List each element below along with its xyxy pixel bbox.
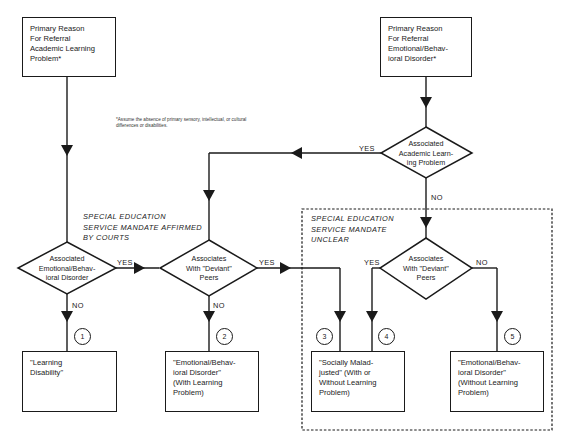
box-line: Primary Reason: [30, 24, 108, 34]
region-line: SERVICE MANDATE AFFIRMED: [83, 223, 202, 234]
box-line: (Without Learning: [458, 378, 536, 388]
label-no-deviant-right: NO: [476, 258, 488, 267]
box-line: (With Learning: [173, 378, 251, 388]
box-outcome-learning-disability: "Learning Disability": [22, 351, 117, 412]
decision-line: Peers: [169, 273, 249, 283]
box-line: "Socially Malad-: [319, 358, 397, 368]
region-line: BY COURTS: [83, 233, 202, 244]
decision-text-deviant-right: Associates With "Deviant" Peers: [386, 254, 466, 283]
box-line: "Learning: [30, 358, 109, 368]
box-line: ioral Disorder": [173, 368, 251, 378]
label-no-deviant-left: NO: [213, 301, 225, 310]
label-yes-emotional: YES: [117, 258, 133, 267]
box-line: ioral Disorder*: [388, 54, 464, 64]
box-line: Academic Learning: [30, 44, 108, 54]
outcome-number-1: 1: [74, 328, 91, 345]
footnote: *Assume the absence of primary sensory, …: [116, 117, 246, 129]
box-line: For Referral: [30, 34, 108, 44]
region-line: UNCLEAR: [311, 235, 394, 246]
box-line: ioral Disorder": [458, 368, 536, 378]
label-yes-deviant-left: YES: [259, 258, 275, 267]
outcome-number-5: 5: [504, 328, 521, 345]
decision-line: Associates: [169, 254, 249, 264]
label-yes-academic: YES: [359, 144, 375, 153]
decision-line: With "Deviant": [169, 264, 249, 274]
decision-line: ing Problem: [386, 158, 466, 168]
label-no-emotional: NO: [72, 301, 84, 310]
decision-line: Associates: [386, 254, 466, 264]
box-outcome-emotional-without-lp: "Emotional/Behav- ioral Disorder" (Witho…: [450, 351, 544, 412]
decision-text-deviant-left: Associates With "Deviant" Peers: [169, 254, 249, 283]
box-line: "Emotional/Behav-: [458, 358, 536, 368]
box-line: Problem): [173, 388, 251, 398]
decision-line: ioral Disorder: [22, 273, 112, 283]
decision-line: With "Deviant": [386, 264, 466, 274]
box-line: Without Learning: [319, 378, 397, 388]
box-outcome-emotional-with-lp: "Emotional/Behav- ioral Disorder" (With …: [165, 351, 259, 412]
box-line: Primary Reason: [388, 24, 464, 34]
box-line: Problem*: [30, 54, 108, 64]
box-line: justed" (With or: [319, 368, 397, 378]
outcome-number-3: 3: [316, 328, 333, 345]
decision-line: Academic Learn-: [386, 149, 466, 159]
box-line: Problem): [458, 388, 536, 398]
region-line: SPECIAL EDUCATION: [83, 212, 202, 223]
outcome-number-2: 2: [216, 328, 233, 345]
region-label-affirmed: SPECIAL EDUCATION SERVICE MANDATE AFFIRM…: [83, 212, 202, 244]
box-line: For Referral: [388, 34, 464, 44]
decision-line: Associated: [22, 254, 112, 264]
box-line: Disability": [30, 368, 109, 378]
label-no-academic: NO: [431, 193, 443, 202]
box-referral-emotional: Primary Reason For Referral Emotional/Be…: [380, 17, 472, 77]
box-referral-academic: Primary Reason For Referral Academic Lea…: [22, 17, 116, 77]
decision-line: Emotional/Behav-: [22, 264, 112, 274]
box-outcome-socially-maladjusted: "Socially Malad- justed" (With or Withou…: [311, 351, 405, 412]
region-label-unclear: SPECIAL EDUCATION SERVICE MANDATE UNCLEA…: [311, 214, 394, 246]
decision-text-academic: Associated Academic Learn- ing Problem: [386, 139, 466, 168]
region-line: SPECIAL EDUCATION: [311, 214, 394, 225]
outcome-number-4: 4: [378, 328, 395, 345]
footnote-line: differences or disabilities.: [116, 123, 246, 129]
box-line: Emotional/Behav-: [388, 44, 464, 54]
box-line: Problem): [319, 388, 397, 398]
region-line: SERVICE MANDATE: [311, 225, 394, 236]
decision-text-emotional: Associated Emotional/Behav- ioral Disord…: [22, 254, 112, 283]
decision-line: Peers: [386, 273, 466, 283]
box-line: "Emotional/Behav-: [173, 358, 251, 368]
decision-line: Associated: [386, 139, 466, 149]
label-yes-deviant-right: YES: [364, 258, 380, 267]
